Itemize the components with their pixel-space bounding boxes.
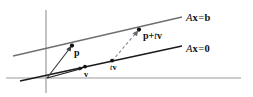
label-p-text: p [74, 47, 80, 58]
line-ax0 [20, 46, 182, 81]
label-ax-equals-zero: Ax=0 [186, 44, 210, 55]
figure-container: Ax=b Ax=0 p+tv p v tv [0, 0, 253, 97]
label-ax-equals-b: Ax=b [186, 13, 210, 24]
label-tv: tv [110, 63, 117, 72]
label-p: p [74, 48, 80, 58]
label-tv-v: v [112, 62, 116, 72]
label-p-plus-tv: p+tv [143, 31, 162, 41]
label-ax0-equals: = [198, 43, 205, 54]
label-axb-equals: = [198, 12, 205, 23]
diagram-canvas [0, 0, 253, 97]
point-v [83, 65, 87, 69]
label-ax0-vector: x [192, 43, 197, 54]
label-axb-vector: x [192, 12, 197, 23]
label-ax0-rhs: 0 [205, 43, 210, 54]
point-p-plus-tv [137, 28, 141, 32]
label-axb-rhs: b [205, 12, 211, 23]
label-v-text: v [84, 69, 88, 79]
label-p-tv-v: v [157, 30, 162, 41]
label-v: v [84, 70, 88, 79]
